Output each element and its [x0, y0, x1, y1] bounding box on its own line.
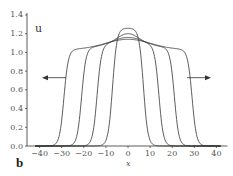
y-axis-label: u	[35, 22, 42, 35]
x-tick-label: 0	[125, 149, 130, 158]
y-tick-label: 1.4	[10, 10, 23, 19]
y-tick-label: 0.6	[10, 85, 23, 94]
x-tick-label: 40	[211, 149, 221, 158]
x-axis-label: x	[126, 159, 131, 168]
y-tick-label: 0.0	[10, 142, 23, 151]
x-tick-label: 30	[189, 149, 199, 158]
curve-t4	[35, 39, 221, 146]
chart: 0.00.20.40.60.81.01.21.4−40−30−20−100102…	[0, 0, 233, 176]
panel-label: b	[16, 155, 23, 171]
y-tick-label: 0.4	[10, 104, 23, 113]
axes: 0.00.20.40.60.81.01.21.4−40−30−20−100102…	[10, 10, 227, 158]
curves	[35, 28, 221, 146]
y-tick-label: 0.2	[10, 123, 23, 132]
x-tick-label: 10	[145, 149, 155, 158]
curve-t3	[35, 37, 221, 146]
x-tick-label: −40	[31, 149, 48, 158]
x-tick-label: 20	[167, 149, 177, 158]
direction-arrows	[42, 75, 211, 80]
arrow-left-icon	[42, 75, 48, 80]
x-tick-label: −30	[53, 149, 70, 158]
y-tick-label: 1.2	[10, 29, 23, 38]
y-tick-label: 0.8	[10, 67, 23, 76]
curve-t1	[35, 28, 221, 146]
curve-t2	[35, 34, 221, 146]
arrow-right-icon	[205, 75, 211, 80]
x-tick-label: −20	[75, 149, 92, 158]
y-tick-label: 1.0	[10, 48, 23, 57]
x-tick-label: −10	[97, 149, 114, 158]
